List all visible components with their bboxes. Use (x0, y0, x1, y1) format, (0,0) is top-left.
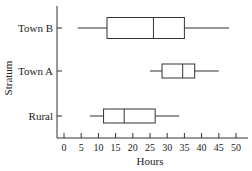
iqr-box (162, 64, 195, 78)
box-plot-chart: 05101520253035404550Town BTown ARural Ho… (0, 0, 252, 171)
box-rural (90, 109, 179, 123)
y-tick-label: Town B (18, 22, 53, 34)
y-axis-label: Stratum (2, 60, 14, 95)
x-tick-label: 20 (128, 142, 138, 153)
boxes (78, 18, 229, 124)
y-tick-label: Town A (18, 65, 53, 77)
box-town-a (150, 64, 219, 78)
x-tick-label: 45 (214, 142, 224, 153)
iqr-box (107, 18, 184, 39)
x-axis-label: Hours (137, 155, 164, 167)
x-tick-label: 50 (231, 142, 241, 153)
x-tick-label: 0 (62, 142, 67, 153)
x-tick-label: 5 (79, 142, 84, 153)
x-tick-label: 35 (179, 142, 189, 153)
x-tick-label: 15 (111, 142, 121, 153)
box-town-b (78, 18, 229, 39)
x-tick-label: 30 (162, 142, 172, 153)
x-tick-label: 10 (93, 142, 103, 153)
x-tick-label: 40 (197, 142, 207, 153)
y-tick-label: Rural (29, 110, 53, 122)
iqr-box (104, 109, 156, 123)
x-tick-label: 25 (145, 142, 155, 153)
